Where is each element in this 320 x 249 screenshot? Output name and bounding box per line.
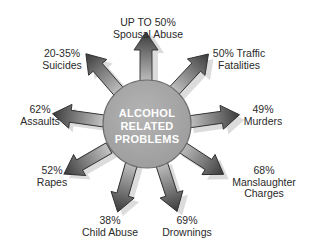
label: Suicides [42,60,82,72]
label-drownings: 69% Drownings [162,215,212,238]
center-line-2: RELATED [115,120,180,133]
label-traffic-fatalities: 50% Traffic Fatalities [213,48,265,71]
center-line-3: PROBLEMS [115,133,180,146]
label-spousal-abuse: UP TO 50% Spousal Abuse [113,17,183,40]
value: UP TO 50% [113,17,183,29]
label: Drownings [162,227,212,239]
label-child-abuse: 38% Child Abuse [82,215,138,238]
label-rapes: 52% Rapes [37,165,67,188]
label: Rapes [37,177,67,189]
label: Assaults [20,116,60,128]
value: 50% Traffic [213,48,265,60]
value: 52% [37,165,67,177]
label-manslaughter-charges: 68% Manslaughter Charges [232,165,296,200]
label-suicides: 20-35% Suicides [42,48,82,71]
value: 69% [162,215,212,227]
center-line-1: ALCOHOL [115,107,180,120]
label: Spousal Abuse [113,29,183,41]
label-assaults: 62% Assaults [20,104,60,127]
value: 68% [232,165,296,177]
label: Murders [244,116,283,128]
label-line-2: Charges [232,188,296,200]
label: Fatalities [213,60,265,72]
value: 20-35% [42,48,82,60]
label-murders: 49% Murders [244,104,283,127]
value: 49% [244,104,283,116]
value: 38% [82,215,138,227]
center-title: ALCOHOL RELATED PROBLEMS [115,107,180,146]
value: 62% [20,104,60,116]
label: Child Abuse [82,227,138,239]
